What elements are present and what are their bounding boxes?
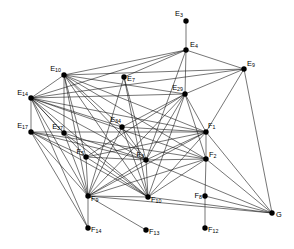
node-dot <box>182 91 187 96</box>
node-label: G <box>276 210 282 219</box>
node-label: F14 <box>91 225 101 234</box>
node-dot <box>202 193 207 198</box>
graph-node-f9: F9 <box>85 193 98 203</box>
node-dot <box>203 156 208 161</box>
graph-figure: E3E4E9E10E7E29E14E17E37E34F1F5F3F2F9F10F… <box>0 0 294 249</box>
graph-node-e34: E34 <box>110 115 125 130</box>
node-label: E29 <box>172 83 183 92</box>
graph-node-e37: E37 <box>52 122 67 136</box>
node-label: F3 <box>137 150 145 159</box>
graph-edge <box>186 50 244 69</box>
graph-edge <box>31 75 64 98</box>
graph-edge <box>86 132 206 157</box>
node-dot <box>28 129 33 134</box>
node-label: E14 <box>17 88 28 97</box>
node-dot <box>121 74 126 79</box>
node-label: F12 <box>208 225 218 234</box>
graph-edge <box>88 196 272 213</box>
node-label: E7 <box>127 74 135 83</box>
graph-node-g: G <box>269 210 282 219</box>
node-dot <box>28 95 33 100</box>
graph-node-f5: F5 <box>77 147 89 160</box>
node-dot <box>202 225 207 230</box>
node-label: F2 <box>209 150 217 159</box>
node-dot <box>241 66 246 71</box>
graph-edge <box>64 133 148 197</box>
graph-node-e10: E10 <box>50 64 67 78</box>
graph-node-e3: E3 <box>175 9 189 24</box>
node-label: E34 <box>110 115 121 124</box>
node-label: E17 <box>17 121 28 130</box>
node-label: E3 <box>175 9 183 18</box>
graph-edge <box>31 132 88 196</box>
node-label: F1 <box>208 121 216 130</box>
node-dot <box>85 225 90 230</box>
node-label: F8 <box>195 191 203 200</box>
node-dot <box>119 124 124 129</box>
graph-edge <box>206 132 272 213</box>
graph-node-f14: F14 <box>85 225 101 234</box>
graph-node-e14: E14 <box>17 88 34 101</box>
node-dot <box>83 154 88 159</box>
node-label: E9 <box>247 59 255 68</box>
node-label: F9 <box>91 194 99 203</box>
graph-canvas: E3E4E9E10E7E29E14E17E37E34F1F5F3F2F9F10F… <box>0 0 294 249</box>
node-dot <box>145 194 150 199</box>
graph-edge <box>205 159 206 196</box>
graph-node-f12: F12 <box>202 225 218 234</box>
graph-node-e7: E7 <box>121 74 135 83</box>
node-dot <box>183 18 188 23</box>
graph-node-f10: F10 <box>145 194 161 204</box>
graph-node-e9: E9 <box>241 59 255 72</box>
graph-edge <box>31 132 148 197</box>
graph-edge <box>244 69 272 213</box>
graph-edge <box>86 157 148 197</box>
node-label: F13 <box>149 227 159 236</box>
node-label: F10 <box>151 195 161 204</box>
node-dot <box>61 72 66 77</box>
graph-node-f3: F3 <box>137 150 149 163</box>
node-dot <box>183 47 188 52</box>
graph-node-f13: F13 <box>143 227 159 236</box>
graph-edge <box>185 50 186 94</box>
graph-node-f1: F1 <box>203 121 215 135</box>
graph-edge <box>31 98 146 160</box>
node-dot <box>143 227 148 232</box>
graph-node-f8: F8 <box>195 191 208 200</box>
node-dot <box>85 193 90 198</box>
node-layer: E3E4E9E10E7E29E14E17E37E34F1F5F3F2F9F10F… <box>17 9 282 236</box>
node-dot <box>269 210 274 215</box>
node-label: F5 <box>77 147 85 156</box>
graph-edge <box>31 98 88 228</box>
graph-edge <box>88 132 206 196</box>
node-dot <box>203 129 208 134</box>
node-label: E10 <box>50 64 61 73</box>
graph-edge <box>64 69 244 75</box>
node-dot <box>143 157 148 162</box>
node-label: E4 <box>190 40 198 49</box>
graph-node-e4: E4 <box>183 40 198 53</box>
